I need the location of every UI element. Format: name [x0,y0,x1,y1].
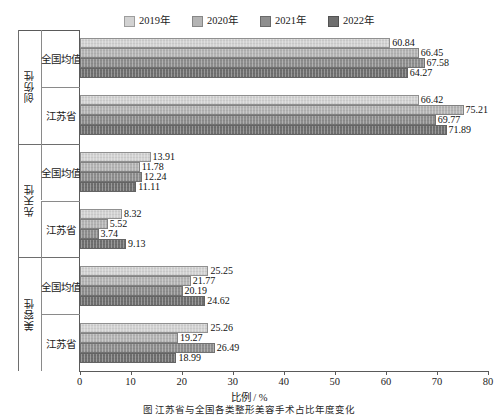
bar-texture [81,126,446,134]
bar-texture [81,287,182,295]
category-label-全国均值: 全国均值 [41,165,76,179]
bar-先天性-全国均值-2022年[interactable] [80,182,137,192]
x-tick-label: 70 [422,376,452,387]
bar-美容性-全国均值-2021年[interactable] [80,286,183,296]
bar-美容性-全国均值-2019年[interactable] [80,266,209,276]
bar-texture [81,277,190,285]
bar-texture [81,163,139,171]
legend-swatch-icon [260,16,271,27]
bar-value-label: 18.99 [176,353,201,363]
legend-swatch-icon [124,16,135,27]
group-label-先天性: 先天性 [18,144,41,258]
bar-value-label: 24.62 [205,296,230,306]
bar-创伤性-全国均值-2019年[interactable] [80,38,391,48]
bar-美容性-江苏省-2022年[interactable] [80,353,177,363]
bar-texture [81,220,107,228]
category-separator [41,201,80,202]
bar-创伤性-全国均值-2021年[interactable] [80,58,425,68]
x-tick-label: 80 [473,376,498,387]
category-separator [41,87,80,88]
group-label-text: 创伤性 [22,70,37,103]
bar-创伤性-江苏省-2019年[interactable] [80,95,419,105]
x-tick-label: 40 [269,376,299,387]
x-tick-label: 60 [371,376,401,387]
x-tick [284,371,285,375]
legend-label: 2020年 [207,16,238,26]
x-tick [488,371,489,375]
bar-value-label: 75.21 [464,105,489,115]
x-tick [233,371,234,375]
x-tick [386,371,387,375]
bar-texture [81,267,208,275]
x-tick [131,371,132,375]
bar-texture [81,173,142,181]
chart-legend: 2019年2020年2021年2022年 [0,13,498,29]
x-tick-label: 10 [116,376,146,387]
x-tick-label: 0 [65,376,95,387]
bar-美容性-江苏省-2020年[interactable] [80,333,178,343]
x-tick [437,371,438,375]
bar-texture [81,39,390,47]
bar-创伤性-全国均值-2020年[interactable] [80,48,419,58]
bar-创伤性-全国均值-2022年[interactable] [80,68,408,78]
bar-texture [81,96,418,104]
bar-texture [81,106,463,114]
bar-texture [81,354,176,362]
bar-创伤性-江苏省-2021年[interactable] [80,115,436,125]
bar-先天性-全国均值-2021年[interactable] [80,172,143,182]
bar-美容性-全国均值-2020年[interactable] [80,276,191,286]
bar-texture [81,116,435,124]
legend-item-2020年[interactable]: 2020年 [192,16,238,27]
bar-texture [81,59,424,67]
category-separator [41,314,80,315]
bar-value-label: 3.74 [99,229,119,239]
bar-value-label: 19.27 [178,333,203,343]
category-label-江苏省: 江苏省 [41,108,76,122]
bar-texture [81,210,121,218]
bar-value-label: 25.26 [208,323,233,333]
legend-swatch-icon [192,16,203,27]
x-tick [182,371,183,375]
bar-先天性-全国均值-2020年[interactable] [80,162,140,172]
legend-label: 2021年 [275,16,306,26]
bar-value-label: 66.42 [419,95,444,105]
bar-texture [81,49,418,57]
bar-texture [81,297,205,305]
bar-value-label: 26.49 [215,343,240,353]
legend-label: 2019年 [139,16,170,26]
category-label-江苏省: 江苏省 [41,336,76,350]
bar-texture [81,153,150,161]
x-tick-label: 20 [167,376,197,387]
bar-value-label: 20.19 [183,286,208,296]
bar-texture [81,334,177,342]
x-tick [80,371,81,375]
group-label-美容性: 美容性 [18,257,41,371]
bar-value-label: 64.27 [408,68,433,78]
bar-美容性-全国均值-2022年[interactable] [80,296,206,306]
bar-先天性-江苏省-2021年[interactable] [80,229,99,239]
bar-texture [81,183,136,191]
bar-texture [81,344,214,352]
bar-texture [81,230,98,238]
bar-value-label: 9.13 [126,239,146,249]
bar-创伤性-江苏省-2020年[interactable] [80,105,464,115]
bar-texture [81,240,126,248]
category-label-江苏省: 江苏省 [41,222,76,236]
bar-创伤性-江苏省-2022年[interactable] [80,125,447,135]
legend-swatch-icon [328,16,339,27]
category-label-全国均值: 全国均值 [41,51,76,65]
x-tick-label: 30 [218,376,248,387]
legend-item-2022年[interactable]: 2022年 [328,16,374,27]
bar-value-label: 11.11 [136,182,160,192]
figure-caption: 图 江苏省与全国各类整形美容手术占比年度变化 [0,402,498,416]
legend-item-2019年[interactable]: 2019年 [124,16,170,27]
bar-先天性-全国均值-2019年[interactable] [80,152,151,162]
legend-label: 2022年 [343,16,374,26]
bar-texture [81,324,208,332]
legend-item-2021年[interactable]: 2021年 [260,16,306,27]
bar-texture [81,69,407,77]
bar-先天性-江苏省-2022年[interactable] [80,239,127,249]
x-tick [335,371,336,375]
group-label-text: 先天性 [22,184,37,217]
